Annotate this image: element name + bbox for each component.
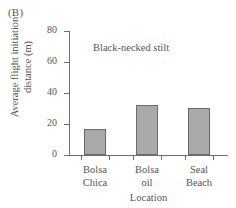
y-tick-label-0: 0 bbox=[52, 148, 57, 159]
y-tick-20: 20 bbox=[64, 124, 69, 125]
x-tick-3a bbox=[185, 156, 186, 160]
y-tick-60: 60 bbox=[64, 62, 69, 63]
x-tick-2a bbox=[133, 156, 134, 160]
x-category-seal-beach-line-2: Beach bbox=[164, 176, 234, 189]
y-axis-label-line-1: Average flight initiation bbox=[8, 2, 21, 132]
x-category-label-seal-beach: Seal Beach bbox=[164, 163, 234, 189]
x-tick-2b bbox=[161, 156, 162, 160]
bar-bolsa-oil bbox=[136, 105, 158, 155]
y-axis-label-line-2: distance (m) bbox=[21, 2, 34, 132]
y-tick-label-20: 20 bbox=[47, 117, 57, 128]
x-axis-label: Location bbox=[69, 192, 228, 203]
x-category-seal-beach-line-1: Seal bbox=[164, 163, 234, 176]
y-axis-line bbox=[69, 31, 70, 156]
bar-seal-beach bbox=[188, 108, 210, 155]
x-tick-1b bbox=[109, 156, 110, 160]
plot-title: Black-necked stilt bbox=[93, 42, 169, 53]
plot-area: 0 20 40 60 80 Black-necked stilt Bolsa C… bbox=[69, 31, 228, 155]
x-tick-1a bbox=[81, 156, 82, 160]
figure-panel-b: (B) Average flight initiation distance (… bbox=[0, 0, 236, 208]
y-tick-label-40: 40 bbox=[47, 86, 57, 97]
y-tick-label-60: 60 bbox=[47, 55, 57, 66]
y-tick-0: 0 bbox=[64, 155, 69, 156]
x-axis-line bbox=[69, 155, 228, 156]
y-tick-80: 80 bbox=[64, 31, 69, 32]
y-axis-label: Average flight initiation distance (m) bbox=[8, 2, 38, 132]
y-tick-label-80: 80 bbox=[47, 24, 57, 35]
bar-bolsa-chica bbox=[84, 129, 106, 155]
y-tick-40: 40 bbox=[64, 93, 69, 94]
x-tick-3b bbox=[213, 156, 214, 160]
